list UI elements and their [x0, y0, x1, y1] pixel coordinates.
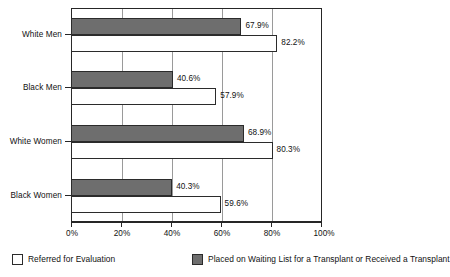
x-axis-label-80: 80%: [264, 229, 281, 238]
legend-item-waiting-list: Placed on Waiting List for a Transplant …: [192, 252, 450, 266]
x-axis-line: [71, 222, 322, 223]
x-axis-label-100: 100%: [313, 229, 334, 238]
y-axis-label-black-men: Black Men: [23, 83, 62, 92]
bar-white-women-waitlist: [71, 125, 244, 142]
legend-item-referred-for-evaluation: Referred for Evaluation: [12, 252, 115, 266]
legend-swatch-hollow-icon: [12, 254, 23, 265]
bar-white-men-waitlist: [71, 18, 241, 35]
bar-black-men-waitlist: [71, 71, 173, 88]
x-axis-tick-100: [321, 222, 322, 227]
legend-swatch-filled-icon: [192, 254, 203, 265]
x-axis-tick-60: [221, 222, 222, 227]
x-axis-tick-80: [271, 222, 272, 227]
x-axis-tick-20: [121, 222, 122, 227]
bar-value-black-women-referred: 59.6%: [225, 199, 248, 208]
chart-legend: Referred for Evaluation Placed on Waitin…: [12, 252, 392, 270]
legend-label-referred-for-evaluation: Referred for Evaluation: [28, 254, 115, 264]
bar-value-white-women-referred: 80.3%: [277, 145, 300, 154]
bar-white-men-referred: [71, 35, 277, 52]
bar-value-white-men-waitlist: 67.9%: [245, 21, 268, 30]
x-axis-tick-40: [171, 222, 172, 227]
bar-white-women-referred: [71, 142, 273, 159]
y-axis-label-white-women: White Women: [10, 137, 62, 146]
x-axis-tick-0: [71, 222, 72, 227]
y-axis-label-black-women: Black Women: [11, 191, 62, 200]
bar-black-women-waitlist: [71, 179, 172, 196]
x-axis-label-20: 20%: [114, 229, 131, 238]
legend-label-waiting-list: Placed on Waiting List for a Transplant …: [208, 254, 450, 264]
y-axis-label-white-men: White Men: [22, 30, 62, 39]
bar-value-black-men-referred: 57.9%: [220, 91, 243, 100]
x-axis-label-0: 0%: [66, 229, 78, 238]
bar-value-black-men-waitlist: 40.6%: [177, 74, 200, 83]
bar-value-black-women-waitlist: 40.3%: [176, 182, 199, 191]
bar-black-men-referred: [71, 88, 216, 105]
bar-black-women-referred: [71, 196, 221, 213]
bar-value-white-women-waitlist: 68.9%: [248, 128, 271, 137]
x-axis-label-40: 40%: [164, 229, 181, 238]
bar-value-white-men-referred: 82.2%: [281, 38, 304, 47]
x-axis-label-60: 60%: [214, 229, 231, 238]
